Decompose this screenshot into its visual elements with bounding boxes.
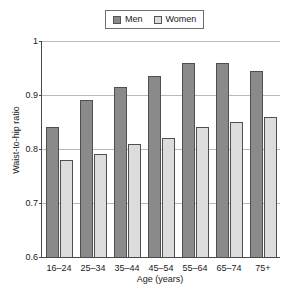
x-tick-label: 16–24 [46,263,71,273]
y-axis-title: Waist-to-hip ratio [11,70,21,210]
x-tick-label: 25–34 [80,263,105,273]
bar-men[interactable] [216,63,229,257]
bar-women[interactable] [128,144,141,257]
bar-men[interactable] [182,63,195,257]
bar-men[interactable] [250,71,263,257]
plot-area: 0.60.70.80.91 16–2425–3435–4445–5455–646… [41,41,280,258]
bar-group: 45–54 [144,41,178,257]
chart-legend: Men Women [105,10,204,29]
legend-entry-women: Women [154,15,197,24]
bar-women[interactable] [162,138,175,257]
legend-entry-men: Men [113,15,143,24]
bar-men[interactable] [148,76,161,257]
y-tick-label: 0.8 [25,144,38,154]
bar-women[interactable] [94,154,107,257]
bar-women[interactable] [60,160,73,257]
y-tick-label: 0.6 [25,252,38,262]
bar-group: 25–34 [76,41,110,257]
bar-women[interactable] [264,117,277,257]
bar-group: 75+ [246,41,280,257]
legend-label-men: Men [125,15,143,24]
bar-men[interactable] [46,127,59,257]
bar-men[interactable] [114,87,127,257]
y-tick-label: 1 [33,36,38,46]
x-tick-label: 65–74 [216,263,241,273]
bar-group: 16–24 [42,41,76,257]
bar-women[interactable] [196,127,209,257]
legend-swatch-women [154,16,162,24]
bar-groups: 16–2425–3435–4445–5455–6465–7475+ [42,41,280,257]
x-axis-title: Age (years) [40,274,280,284]
y-tick-mark [39,257,42,258]
x-tick-label: 75+ [255,263,270,273]
chart-figure: Men Women Waist-to-hip ratio 0.60.70.80.… [0,0,287,291]
bar-group: 35–44 [110,41,144,257]
y-tick-label: 0.7 [25,198,38,208]
x-tick-label: 45–54 [148,263,173,273]
legend-swatch-men [113,16,121,24]
bar-group: 55–64 [178,41,212,257]
bar-group: 65–74 [212,41,246,257]
x-tick-label: 35–44 [114,263,139,273]
legend-label-women: Women [166,15,197,24]
x-tick-label: 55–64 [182,263,207,273]
y-tick-label: 0.9 [25,90,38,100]
plot-inner: 0.60.70.80.91 16–2425–3435–4445–5455–646… [42,41,280,257]
bar-men[interactable] [80,100,93,257]
bar-women[interactable] [230,122,243,257]
